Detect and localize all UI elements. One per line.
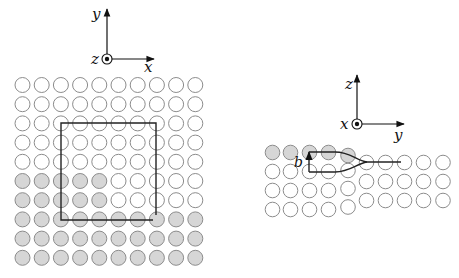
atom: [149, 193, 164, 208]
atom: [378, 174, 393, 189]
atom: [34, 78, 49, 93]
right-panel: z x y b: [265, 75, 450, 217]
atom: [188, 135, 203, 150]
atom: [169, 174, 184, 189]
atom: [130, 174, 145, 189]
atom: [15, 116, 30, 131]
atom: [92, 154, 107, 169]
atom: [436, 193, 451, 208]
left-lattice: [15, 78, 203, 266]
right-lattice: [265, 145, 450, 217]
left-panel: y z x: [15, 5, 203, 265]
atom: [34, 116, 49, 131]
atom: [188, 116, 203, 131]
atom: [302, 183, 317, 198]
atom: [111, 193, 126, 208]
atom-shaded: [34, 250, 49, 265]
atom: [111, 154, 126, 169]
atom: [169, 97, 184, 112]
atom-shaded: [169, 231, 184, 246]
atom: [188, 154, 203, 169]
left-axes: y z x: [90, 5, 154, 76]
atom: [397, 193, 412, 208]
atom-shaded: [188, 231, 203, 246]
atom: [34, 97, 49, 112]
atom: [283, 202, 298, 217]
burgers-vector-label: b: [294, 154, 303, 170]
atom-shaded: [92, 174, 107, 189]
lower-circuit-line: [309, 162, 367, 172]
atom: [92, 135, 107, 150]
atom: [169, 193, 184, 208]
atom: [111, 97, 126, 112]
atom-shaded: [188, 212, 203, 227]
atom-shaded: [15, 231, 30, 246]
atom-shaded: [15, 193, 30, 208]
atom: [359, 174, 374, 189]
atom-shaded: [265, 145, 280, 160]
atom: [149, 154, 164, 169]
atom: [265, 202, 280, 217]
z-out-of-plane-dot: [105, 57, 109, 61]
atom: [111, 78, 126, 93]
z-axis-label: z: [344, 75, 353, 93]
atom: [130, 154, 145, 169]
atom-shaded: [15, 212, 30, 227]
atom: [15, 154, 30, 169]
atom: [283, 183, 298, 198]
atom: [92, 97, 107, 112]
atom: [130, 135, 145, 150]
atom-shaded: [111, 250, 126, 265]
atom: [265, 183, 280, 198]
atom: [53, 97, 68, 112]
atom-shaded: [130, 231, 145, 246]
atom: [265, 164, 280, 179]
atom: [73, 135, 88, 150]
x-axis-label: x: [340, 115, 349, 133]
atom: [15, 135, 30, 150]
y-axis-label: y: [91, 5, 101, 23]
atom-shaded: [53, 231, 68, 246]
atom: [169, 116, 184, 131]
atom: [416, 174, 431, 189]
atom: [130, 97, 145, 112]
atom-shaded: [53, 250, 68, 265]
atom-shaded: [169, 212, 184, 227]
atom: [321, 183, 336, 198]
atom: [302, 202, 317, 217]
atom: [111, 174, 126, 189]
atom-shaded: [92, 193, 107, 208]
atom-shaded: [92, 231, 107, 246]
atom: [359, 193, 374, 208]
atom: [34, 154, 49, 169]
z-axis-label: z: [90, 50, 99, 68]
atom: [149, 97, 164, 112]
atom: [149, 135, 164, 150]
atom-shaded: [149, 250, 164, 265]
atom: [416, 193, 431, 208]
atom: [188, 78, 203, 93]
atom-shaded: [15, 174, 30, 189]
atom-shaded: [130, 250, 145, 265]
atom: [169, 78, 184, 93]
atom: [53, 78, 68, 93]
atom: [73, 78, 88, 93]
x-axis-label: x: [144, 58, 153, 76]
atom-shaded: [111, 231, 126, 246]
atom-shaded: [34, 231, 49, 246]
y-axis-label: y: [393, 126, 403, 144]
atom: [111, 135, 126, 150]
atom: [341, 181, 356, 196]
atom-shaded: [73, 193, 88, 208]
atom: [73, 154, 88, 169]
atom-shaded: [73, 174, 88, 189]
atom: [34, 135, 49, 150]
atom-shaded: [188, 250, 203, 265]
atom: [397, 174, 412, 189]
atom: [188, 97, 203, 112]
atom: [149, 78, 164, 93]
atom: [188, 174, 203, 189]
atom-shaded: [73, 250, 88, 265]
atom: [436, 155, 451, 170]
atom-shaded: [341, 148, 356, 163]
